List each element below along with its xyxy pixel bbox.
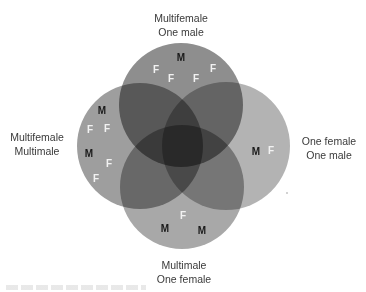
label-left-line1: Multifemale	[2, 130, 72, 144]
female-symbol: F	[153, 64, 159, 75]
label-bottom-line1: Multimale	[134, 258, 234, 272]
female-symbol: F	[87, 124, 93, 135]
label-right: One female One male	[296, 134, 362, 162]
female-symbol: F	[168, 73, 174, 84]
female-symbol: F	[106, 158, 112, 169]
female-symbol: F	[180, 210, 186, 221]
male-symbol: M	[252, 146, 260, 157]
label-right-line2: One male	[296, 148, 362, 162]
male-symbol: M	[85, 148, 93, 159]
male-symbol: M	[161, 223, 169, 234]
female-symbol: F	[268, 145, 274, 156]
label-top: Multifemale One male	[131, 11, 231, 39]
speck	[286, 192, 288, 194]
male-symbol: M	[98, 105, 106, 116]
label-bottom: Multimale One female	[134, 258, 234, 286]
label-bottom-line2: One female	[134, 272, 234, 286]
male-symbol: M	[177, 52, 185, 63]
female-symbol: F	[104, 123, 110, 134]
female-symbol: F	[210, 63, 216, 74]
label-top-line2: One male	[131, 25, 231, 39]
male-symbol: M	[198, 225, 206, 236]
cropped-caption	[6, 285, 146, 290]
label-left-line2: Multimale	[2, 144, 72, 158]
label-left: Multifemale Multimale	[2, 130, 72, 158]
female-symbol: F	[93, 173, 99, 184]
label-right-line1: One female	[296, 134, 362, 148]
female-symbol: F	[193, 73, 199, 84]
label-top-line1: Multifemale	[131, 11, 231, 25]
